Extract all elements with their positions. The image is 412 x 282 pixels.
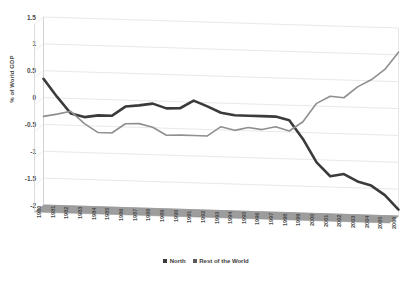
chart-legend: NorthRest of the World	[0, 258, 412, 264]
x-tick-label: 1992	[200, 211, 206, 223]
x-tick-label: 2004	[364, 216, 370, 228]
x-tick-label: 1994	[227, 211, 233, 223]
x-tick-label: 1993	[214, 211, 220, 223]
legend-label: North	[170, 258, 186, 264]
x-tick-label: 1998	[282, 213, 288, 225]
x-tick-label: 1980	[36, 206, 42, 218]
x-tick-label: 1997	[268, 213, 274, 225]
x-tick-label: 2005	[377, 216, 383, 228]
legend-item[interactable]: North	[163, 258, 186, 264]
x-tick-label: 1985	[104, 208, 110, 220]
x-tick-label: 1989	[159, 209, 165, 221]
x-tick-label: 1996	[254, 212, 260, 224]
x-tick-label: 1995	[241, 212, 247, 224]
x-tick-label: 2003	[350, 215, 356, 227]
chart-container: % of World GDP 1.510.50-0.5-1-1.5-2 1980…	[0, 0, 412, 282]
legend-swatch-icon	[163, 259, 167, 263]
x-tick-label: 1990	[173, 210, 179, 222]
x-tick-label: 1984	[91, 207, 97, 219]
x-tick-label: 1987	[132, 209, 138, 221]
x-tick-label: 1982	[63, 206, 69, 218]
legend-label: Rest of the World	[199, 258, 249, 264]
x-tick-label: 2002	[336, 215, 342, 227]
x-axis-tick-labels: 1980198119821983198419851986198719881989…	[0, 0, 412, 282]
x-tick-label: 2006	[391, 217, 397, 229]
x-tick-label: 1983	[77, 207, 83, 219]
x-tick-label: 2000	[309, 214, 315, 226]
x-tick-label: 1991	[186, 210, 192, 222]
x-tick-label: 1988	[145, 209, 151, 221]
x-tick-label: 1981	[50, 206, 56, 218]
x-tick-label: 1999	[295, 214, 301, 226]
legend-swatch-icon	[193, 259, 197, 263]
x-tick-label: 1986	[118, 208, 124, 220]
legend-item[interactable]: Rest of the World	[193, 258, 249, 264]
x-tick-label: 2001	[323, 214, 329, 226]
